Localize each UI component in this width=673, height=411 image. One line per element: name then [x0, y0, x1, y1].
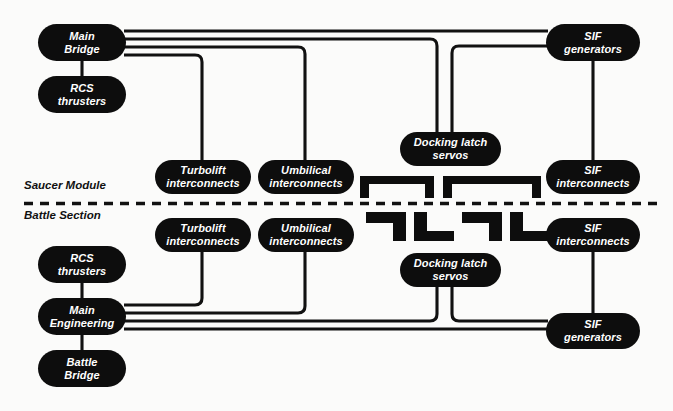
node-label-line1: Umbilical — [281, 164, 331, 177]
latch-bracket-upper-left — [360, 176, 434, 198]
node-turbolift-battle[interactable]: Turboliftinterconnects — [155, 218, 251, 252]
wire-mainbridge-dockinglatch — [124, 39, 437, 135]
node-label-line2: Bridge — [64, 43, 99, 56]
node-umbilical-battle[interactable]: Umbilicalinterconnects — [258, 218, 354, 252]
node-label-line1: Turbolift — [180, 222, 225, 235]
node-label-line1: SIF — [584, 222, 601, 235]
node-label-line2: Engineering — [50, 317, 115, 330]
node-label-line2: interconnects — [269, 177, 342, 190]
node-sif-interconnects-saucer[interactable]: SIFinterconnects — [546, 160, 640, 194]
node-turbolift-saucer[interactable]: Turboliftinterconnects — [155, 160, 251, 194]
wire-mainbridge-turbolift — [124, 55, 202, 163]
node-label-line1: Main — [69, 30, 94, 43]
section-label-saucer: Saucer Module — [24, 179, 106, 191]
node-rcs-thrusters-battle[interactable]: RCSthrusters — [38, 246, 126, 283]
node-docking-latch-battle[interactable]: Docking latchservos — [400, 253, 501, 287]
section-label-battle: Battle Section — [24, 209, 101, 221]
node-label-line2: servos — [432, 149, 468, 162]
node-label-line2: generators — [564, 43, 622, 56]
node-label-line1: Docking latch — [414, 257, 487, 270]
node-docking-latch-saucer[interactable]: Docking latchservos — [400, 132, 501, 166]
node-label-line2: interconnects — [269, 235, 342, 248]
node-sif-generators-saucer[interactable]: SIFgenerators — [546, 24, 640, 61]
node-battle-bridge[interactable]: BattleBridge — [38, 350, 126, 387]
node-rcs-thrusters-saucer[interactable]: RCSthrusters — [38, 76, 126, 113]
node-label-line2: interconnects — [556, 177, 629, 190]
wire-mainengineering-umbilical — [124, 249, 305, 313]
node-label-line1: RCS — [70, 252, 94, 265]
node-label-line2: thrusters — [58, 265, 107, 278]
wire-sifgen-dockinglatch-battle — [452, 284, 548, 321]
latch-bracket-lower-2 — [414, 212, 454, 241]
node-label-line1: Umbilical — [281, 222, 331, 235]
node-label-line1: Main — [69, 304, 94, 317]
node-umbilical-saucer[interactable]: Umbilicalinterconnects — [258, 160, 354, 194]
node-label-line2: interconnects — [166, 235, 239, 248]
node-label-line2: servos — [432, 270, 468, 283]
diagram-canvas: Saucer Module Battle Section MainBridgeR… — [0, 0, 673, 411]
latch-brackets-upper — [360, 176, 541, 198]
wire-mainengineering-turbolift — [124, 249, 202, 305]
node-main-engineering[interactable]: MainEngineering — [38, 298, 126, 335]
node-label-line2: interconnects — [556, 235, 629, 248]
node-label-line1: SIF — [584, 164, 601, 177]
node-label-line1: Battle — [66, 356, 97, 369]
wire-sifgen-dockinglatch — [452, 46, 548, 135]
node-label-line1: Docking latch — [414, 136, 487, 149]
node-label-line1: Turbolift — [180, 164, 225, 177]
wire-mainengineering-dockinglatch — [124, 284, 437, 321]
latch-bracket-upper-right — [443, 176, 541, 198]
node-sif-generators-battle[interactable]: SIFgenerators — [546, 313, 640, 349]
node-sif-interconnects-battle[interactable]: SIFinterconnects — [546, 218, 640, 252]
node-label-line1: RCS — [70, 82, 94, 95]
node-label-line2: Bridge — [64, 369, 99, 382]
node-label-line2: interconnects — [166, 177, 239, 190]
latch-bracket-lower-1 — [366, 212, 406, 241]
latch-bracket-lower-4 — [510, 212, 550, 241]
node-main-bridge[interactable]: MainBridge — [38, 24, 126, 61]
node-label-line1: SIF — [584, 318, 601, 331]
latch-brackets-lower — [366, 212, 550, 241]
latch-bracket-lower-3 — [462, 212, 502, 241]
node-label-line2: generators — [564, 331, 622, 344]
node-label-line1: SIF — [584, 30, 601, 43]
node-label-line2: thrusters — [58, 95, 107, 108]
wire-mainbridge-umbilical — [124, 47, 305, 163]
